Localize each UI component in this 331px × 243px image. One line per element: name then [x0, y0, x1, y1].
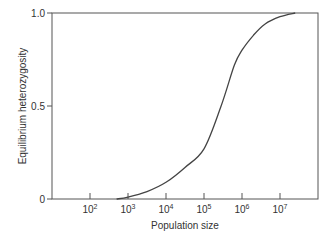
y-axis-label: Equilibrium heterozygosity: [17, 48, 28, 165]
x-tick-label: 105: [196, 203, 211, 215]
x-tick-label: 102: [82, 203, 97, 215]
x-axis-label: Population size: [151, 220, 219, 231]
y-tick-label: 1.0: [31, 8, 45, 19]
y-tick-label: 0.5: [31, 101, 45, 112]
heterozygosity-curve: [117, 13, 296, 199]
plot-frame: [52, 13, 318, 199]
chart: 1.0 0.5 0 102 103 104 105 106 107 Popula…: [0, 0, 331, 243]
x-tick-label: 106: [234, 203, 249, 215]
x-tick-label: 104: [158, 203, 173, 215]
x-tick-label: 103: [120, 203, 135, 215]
x-tick-label: 107: [272, 203, 287, 215]
x-ticks: [90, 193, 280, 199]
y-tick-label: 0: [39, 194, 45, 205]
